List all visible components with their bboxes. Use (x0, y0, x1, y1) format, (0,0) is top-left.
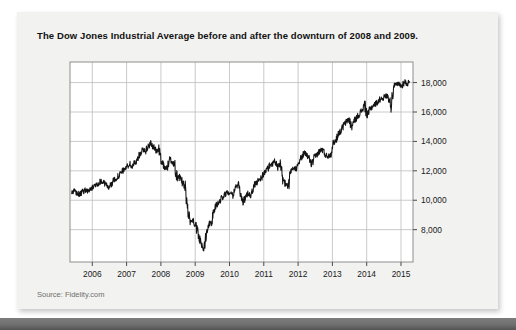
x-axis-tick-label: 2009 (186, 269, 205, 279)
chart-card: The Dow Jones Industrial Average before … (17, 12, 498, 309)
x-axis-tick-label: 2011 (255, 269, 273, 279)
plot-background (70, 62, 413, 262)
x-axis-tick-label: 2015 (392, 269, 411, 279)
source-caption: Source: Fidelity.com (37, 290, 104, 299)
chart-plot-area: 8,00010,00012,00014,00016,00018,000 2006… (52, 49, 452, 281)
y-axis-tick-label: 12,000 (421, 166, 447, 176)
x-axis-tick-label: 2008 (152, 269, 171, 279)
y-axis-tick-label: 14,000 (421, 136, 447, 146)
page-title: The Dow Jones Industrial Average before … (37, 30, 477, 41)
x-axis-tick-label: 2013 (323, 269, 342, 279)
y-axis-tick-label: 8,000 (421, 225, 442, 235)
x-axis-tick-label: 2010 (220, 269, 239, 279)
y-axis-ticks (413, 83, 417, 230)
chart-card-inner: The Dow Jones Industrial Average before … (17, 12, 498, 309)
x-axis-labels: 2006200720082009201020112012201320142015 (83, 269, 411, 279)
x-axis-tick-label: 2007 (117, 269, 136, 279)
y-axis-tick-label: 10,000 (421, 195, 447, 205)
bottom-status-bar (0, 318, 516, 330)
y-axis-tick-label: 18,000 (421, 78, 447, 88)
x-axis-tick-label: 2006 (83, 269, 102, 279)
x-axis-tick-label: 2014 (357, 269, 376, 279)
x-axis-ticks (92, 262, 401, 266)
dow-jones-line-chart: 8,00010,00012,00014,00016,00018,000 2006… (52, 49, 452, 281)
y-axis-tick-label: 16,000 (421, 107, 447, 117)
y-axis-labels: 8,00010,00012,00014,00016,00018,000 (421, 78, 447, 235)
x-axis-tick-label: 2012 (289, 269, 308, 279)
